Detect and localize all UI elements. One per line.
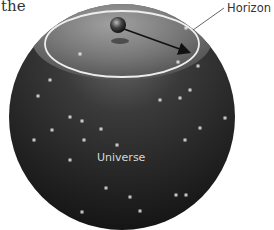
star: [173, 192, 178, 197]
star: [77, 51, 82, 56]
star: [31, 137, 36, 142]
star: [49, 127, 54, 132]
star: [47, 77, 52, 82]
horizon-label: Horizon: [227, 1, 271, 15]
star: [79, 118, 84, 123]
star: [157, 97, 162, 102]
star: [81, 137, 86, 142]
star: [67, 157, 72, 162]
star: [182, 137, 187, 142]
star: [79, 209, 84, 214]
observer-ball: [110, 17, 126, 33]
star: [137, 208, 142, 213]
star: [195, 63, 200, 68]
star: [35, 93, 40, 98]
star: [222, 115, 227, 120]
star: [103, 185, 108, 190]
star: [187, 87, 192, 92]
star: [177, 95, 182, 100]
star: [114, 142, 119, 147]
horizon-leader-line: [193, 8, 224, 30]
star: [127, 194, 132, 199]
star: [175, 59, 180, 64]
star: [197, 125, 202, 130]
star: [183, 192, 188, 197]
universe-label: Universe: [97, 151, 145, 164]
observer-shadow: [111, 38, 129, 44]
star: [67, 114, 72, 119]
universe-diagram: [0, 0, 274, 230]
star: [98, 126, 103, 131]
